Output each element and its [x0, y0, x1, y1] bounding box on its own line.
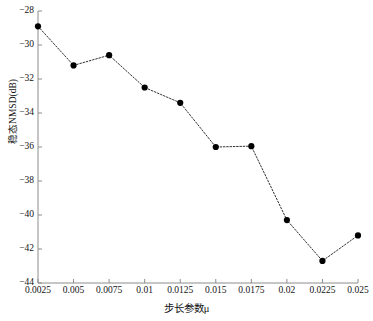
data-point-marker [142, 84, 148, 90]
data-series-line [38, 26, 358, 261]
x-axis-tick-label: 0.015 [205, 285, 226, 295]
y-axis-tick-label: −28 [8, 5, 34, 15]
data-point-marker [284, 217, 290, 223]
data-point-marker [106, 52, 112, 58]
y-axis-tick-label: −36 [8, 141, 34, 151]
x-axis-tick-label: 0.005 [63, 285, 84, 295]
data-point-marker [319, 258, 325, 264]
y-axis-tick-label: −40 [8, 209, 34, 219]
nmsd-vs-stepsize-line-chart [0, 0, 373, 321]
data-point-marker [35, 23, 41, 29]
x-axis-title: 步长参数μ [0, 300, 373, 315]
data-point-marker [355, 232, 361, 238]
x-axis-tick-label: 0.0175 [238, 285, 264, 295]
x-axis-tick-label: 0.025 [347, 285, 368, 295]
x-axis-tick-label: 0.0075 [96, 285, 122, 295]
x-axis-tick-label: 0.0125 [167, 285, 193, 295]
x-axis-tick-label: 0.01 [136, 285, 153, 295]
y-axis-tick-label: −32 [8, 73, 34, 83]
x-axis-tick-label: 0.02 [279, 285, 296, 295]
y-axis-tick-label: −42 [8, 243, 34, 253]
data-point-marker [177, 100, 183, 106]
chart-figure: 稳态NMSD(dB) 步长参数μ −28−30−32−34−36−38−40−4… [0, 0, 373, 321]
data-point-marker [248, 143, 254, 149]
data-point-marker [70, 62, 76, 68]
y-axis-tick-label: −34 [8, 107, 34, 117]
y-axis-tick-label: −30 [8, 39, 34, 49]
data-point-marker [213, 144, 219, 150]
y-axis-tick-label: −38 [8, 175, 34, 185]
x-axis-tick-label: 0.0225 [309, 285, 335, 295]
x-axis-tick-label: 0.0025 [25, 285, 51, 295]
